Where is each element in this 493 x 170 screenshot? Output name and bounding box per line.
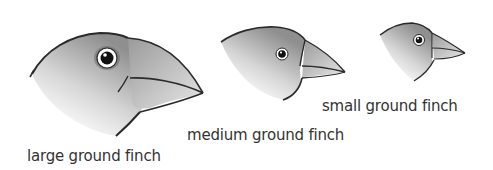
label-large-finch: large ground finch xyxy=(27,147,161,165)
medium-finch-head xyxy=(221,27,345,100)
small-finch-head xyxy=(380,23,465,81)
label-small-finch: small ground finch xyxy=(322,97,458,115)
finch-illustration xyxy=(0,0,493,170)
label-medium-finch: medium ground finch xyxy=(187,126,344,144)
large-finch-head xyxy=(32,33,203,136)
